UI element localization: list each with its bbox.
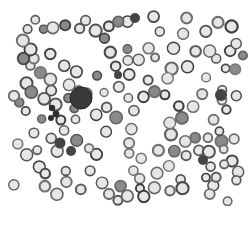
red-blood-cell — [124, 94, 132, 102]
dark-cell — [198, 155, 208, 165]
red-blood-cell — [9, 91, 19, 101]
red-blood-cell — [213, 17, 224, 28]
red-blood-cell — [232, 176, 241, 185]
red-blood-cell — [51, 188, 63, 200]
red-blood-cell — [204, 133, 213, 142]
red-blood-cell — [124, 138, 134, 148]
red-blood-cell — [22, 107, 30, 115]
red-blood-cell — [205, 189, 215, 199]
red-blood-cell — [29, 128, 39, 138]
red-blood-cell — [125, 149, 134, 158]
neutrophil-lobe — [49, 105, 55, 111]
red-blood-cell — [61, 167, 70, 176]
neutrophil-lobe — [53, 111, 60, 118]
red-blood-cell — [61, 177, 72, 188]
red-blood-cell — [102, 103, 112, 113]
red-blood-cell — [135, 174, 145, 184]
red-blood-cell — [178, 28, 189, 39]
red-blood-cell — [123, 45, 132, 54]
red-blood-cell — [40, 181, 51, 192]
red-blood-cell — [231, 39, 241, 49]
red-blood-cell — [153, 145, 164, 156]
red-blood-cell — [60, 126, 69, 135]
red-blood-cell — [165, 186, 174, 195]
red-blood-cell — [197, 89, 207, 99]
red-blood-cell — [71, 66, 83, 78]
red-blood-cell — [144, 76, 153, 85]
red-blood-cell — [149, 182, 161, 194]
red-blood-cell — [81, 16, 91, 26]
red-blood-cell — [45, 49, 56, 60]
red-blood-cell — [190, 46, 201, 57]
red-blood-cell — [202, 73, 211, 82]
red-blood-cell — [200, 26, 211, 37]
red-blood-cell — [85, 144, 94, 153]
dark-cell — [130, 13, 140, 23]
dark-cell — [215, 89, 227, 101]
red-blood-cell — [182, 61, 194, 73]
red-blood-cell — [220, 160, 228, 168]
red-blood-cell — [115, 181, 126, 192]
red-blood-cell — [40, 169, 50, 179]
red-blood-cell — [21, 149, 33, 161]
red-blood-cell — [176, 112, 188, 124]
red-blood-cell — [149, 86, 160, 97]
red-blood-cell — [209, 115, 219, 125]
red-blood-cell — [169, 145, 180, 156]
red-blood-cell — [85, 166, 95, 176]
red-blood-cell — [38, 93, 50, 105]
red-blood-cell — [223, 197, 232, 206]
red-blood-cell — [164, 117, 176, 129]
red-blood-cell — [190, 133, 200, 143]
leukocyte — [70, 87, 92, 109]
red-blood-cell — [123, 56, 133, 66]
red-blood-cell — [9, 180, 19, 190]
red-blood-cell — [33, 146, 41, 154]
red-blood-cell — [215, 127, 223, 135]
red-blood-cell — [212, 173, 221, 182]
blood-smear-micrograph — [8, 10, 248, 206]
red-blood-cell — [129, 106, 139, 116]
dark-cell — [114, 71, 122, 79]
red-blood-cell — [160, 90, 169, 99]
red-blood-cell — [176, 182, 188, 194]
red-blood-cell — [162, 73, 173, 84]
neutrophil-lobe — [48, 115, 54, 121]
red-blood-cell — [17, 35, 29, 47]
red-blood-cell — [138, 191, 149, 202]
red-blood-cell — [136, 153, 146, 163]
red-blood-cell — [60, 20, 70, 30]
red-blood-cell — [151, 54, 159, 62]
red-blood-cell — [167, 42, 179, 54]
dark-cell — [66, 146, 76, 156]
red-blood-cell — [71, 135, 83, 147]
red-blood-cell — [104, 189, 114, 199]
red-blood-cell — [76, 185, 86, 195]
red-blood-cell — [202, 174, 210, 182]
red-blood-cell — [133, 54, 144, 65]
red-blood-cell — [231, 91, 241, 101]
red-blood-cell — [93, 71, 102, 80]
red-blood-cell — [222, 105, 231, 114]
red-blood-cell — [25, 86, 37, 98]
red-blood-cell — [138, 91, 149, 102]
red-blood-cell — [164, 161, 175, 172]
red-blood-cell — [206, 162, 215, 171]
red-blood-cell — [148, 11, 159, 22]
red-blood-cell — [96, 177, 108, 189]
red-blood-cell — [181, 151, 190, 160]
red-blood-cell — [181, 13, 192, 24]
red-blood-cell — [44, 73, 56, 85]
red-blood-cell — [110, 111, 122, 123]
red-blood-cell — [38, 115, 46, 123]
red-blood-cell — [220, 145, 228, 153]
dark-cell — [55, 138, 66, 149]
red-blood-cell — [111, 61, 121, 71]
red-blood-cell — [222, 64, 230, 72]
red-blood-cell — [101, 126, 112, 137]
red-blood-cell — [114, 82, 124, 92]
red-blood-cell — [59, 60, 70, 71]
red-blood-cell — [229, 134, 239, 144]
red-blood-cell — [143, 43, 154, 54]
red-blood-cell — [124, 69, 135, 80]
